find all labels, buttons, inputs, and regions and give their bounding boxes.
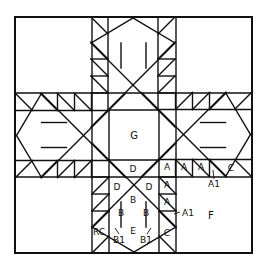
- label-a-4: A: [164, 180, 171, 190]
- label-a-1: A: [164, 162, 171, 172]
- label-e: E: [130, 226, 136, 236]
- label-b1-left: B1: [113, 235, 125, 245]
- label-c-right: C: [228, 163, 234, 173]
- label-b1-right: B1: [140, 235, 152, 245]
- label-d-left: D: [114, 182, 121, 192]
- label-a-2: A: [181, 162, 188, 172]
- label-rc: RC: [93, 227, 105, 237]
- label-a1-right: A1: [208, 179, 220, 189]
- label-g: G: [130, 130, 138, 141]
- quilt-block-diagram: G F D D D B B B E RC B1 B1 C C A A A A A…: [0, 0, 266, 271]
- label-a-5: A: [164, 197, 171, 207]
- label-d-right: D: [146, 182, 153, 192]
- label-a-3: A: [198, 162, 205, 172]
- label-f: F: [208, 210, 214, 221]
- label-c-bottom: C: [164, 228, 170, 238]
- label-a1-bottom: A1: [182, 208, 194, 218]
- label-d-top: D: [130, 164, 137, 174]
- label-b-right: B: [143, 208, 149, 218]
- label-b-left: B: [118, 208, 124, 218]
- label-b-top: B: [130, 195, 136, 205]
